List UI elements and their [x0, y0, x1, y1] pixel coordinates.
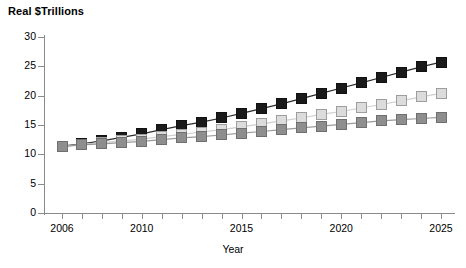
y-axis-tick	[38, 66, 44, 67]
x-axis-tick	[441, 213, 442, 219]
data-point-low-2018	[296, 122, 307, 133]
y-axis-tick	[38, 213, 44, 214]
x-axis-tick	[281, 213, 282, 219]
data-point-middle-2021	[356, 102, 367, 113]
x-axis-tick-label: 2015	[230, 222, 253, 234]
x-axis-tick	[102, 213, 103, 219]
x-axis-title: Year	[0, 243, 466, 255]
x-axis-tick	[202, 213, 203, 219]
data-point-low-2022	[376, 115, 387, 126]
data-point-low-2011	[156, 134, 167, 145]
data-point-low-2021	[356, 117, 367, 128]
data-point-high-2018	[296, 93, 307, 104]
data-point-low-2025	[436, 112, 447, 123]
y-axis-tick	[38, 154, 44, 155]
data-point-high-2021	[356, 77, 367, 88]
x-axis-tick	[82, 213, 83, 219]
data-point-low-2013	[196, 131, 207, 142]
data-point-low-2007	[76, 139, 87, 150]
data-point-low-2024	[416, 113, 427, 124]
x-axis-tick	[62, 213, 63, 219]
data-point-middle-2023	[396, 95, 407, 106]
data-point-high-2020	[336, 83, 347, 94]
data-point-low-2015	[236, 128, 247, 139]
x-axis-tick	[162, 213, 163, 219]
data-point-low-2016	[256, 126, 267, 137]
y-axis-tick	[38, 96, 44, 97]
x-axis-tick	[142, 213, 143, 219]
data-point-low-2008	[96, 138, 107, 149]
data-point-low-2023	[396, 114, 407, 125]
x-axis-tick	[401, 213, 402, 219]
data-point-high-2015	[236, 108, 247, 119]
data-point-low-2014	[216, 129, 227, 140]
x-axis-tick	[182, 213, 183, 219]
y-axis-tick	[38, 184, 44, 185]
data-point-high-2025	[436, 57, 447, 68]
data-point-high-2023	[396, 67, 407, 78]
data-point-middle-2022	[376, 99, 387, 110]
data-point-low-2009	[116, 137, 127, 148]
data-point-low-2017	[276, 124, 287, 135]
data-point-high-2022	[376, 72, 387, 83]
x-axis-tick	[261, 213, 262, 219]
data-point-low-2010	[136, 136, 147, 147]
x-axis-tick-label: 2020	[330, 222, 353, 234]
data-point-high-2016	[256, 103, 267, 114]
x-axis-tick	[122, 213, 123, 219]
x-axis-tick	[321, 213, 322, 219]
data-point-middle-2024	[416, 91, 427, 102]
data-point-low-2019	[316, 121, 327, 132]
data-point-middle-2019	[316, 109, 327, 120]
x-axis-tick	[222, 213, 223, 219]
x-axis-tick	[421, 213, 422, 219]
data-point-high-2019	[316, 88, 327, 99]
data-point-high-2024	[416, 61, 427, 72]
data-point-low-2006	[57, 141, 68, 152]
data-point-high-2017	[276, 98, 287, 109]
x-axis-tick	[361, 213, 362, 219]
x-axis-tick	[381, 213, 382, 219]
data-point-low-2012	[176, 132, 187, 143]
data-point-middle-2020	[336, 106, 347, 117]
y-axis-tick	[38, 125, 44, 126]
data-point-high-2014	[216, 112, 227, 123]
data-point-middle-2025	[436, 88, 447, 99]
x-axis-tick-label: 2006	[50, 222, 73, 234]
data-point-low-2020	[336, 119, 347, 130]
x-axis-tick	[242, 213, 243, 219]
x-axis-tick-label: 2025	[429, 222, 452, 234]
x-axis-tick-label: 2010	[130, 222, 153, 234]
x-axis-tick	[341, 213, 342, 219]
x-axis-tick	[301, 213, 302, 219]
y-axis-tick	[38, 37, 44, 38]
chart-container: Real $Trillions 051015202530 Year 200620…	[0, 0, 466, 268]
